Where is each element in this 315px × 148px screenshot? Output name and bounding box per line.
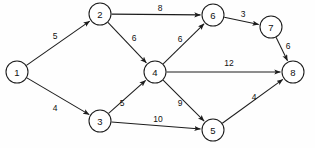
graph-svg: 54865106129364 12345678 (0, 0, 315, 148)
node-label-6: 6 (210, 10, 215, 21)
node-label-7: 7 (268, 22, 273, 33)
node-7[interactable]: 7 (260, 16, 282, 38)
edge-2-to-4 (108, 22, 146, 63)
node-6[interactable]: 6 (202, 4, 224, 26)
node-5[interactable]: 5 (202, 119, 224, 141)
node-3[interactable]: 3 (89, 110, 111, 132)
edge-weight-2-4: 6 (132, 33, 137, 43)
edge-2-to-6 (111, 14, 200, 15)
edge-weight-1-3: 4 (53, 103, 58, 113)
edge-weights-group: 54865106129364 (53, 3, 291, 124)
edge-weight-6-7: 3 (241, 9, 246, 19)
edge-3-to-4 (109, 80, 146, 113)
edge-1-to-3 (27, 78, 89, 115)
edge-weight-5-8: 4 (252, 92, 257, 102)
node-label-2: 2 (97, 9, 102, 20)
edge-weight-3-5: 10 (153, 114, 163, 124)
node-label-3: 3 (97, 116, 102, 127)
node-8[interactable]: 8 (282, 61, 304, 83)
edge-weight-4-5: 9 (178, 98, 183, 108)
node-label-8: 8 (290, 67, 295, 78)
edge-weight-3-4: 5 (120, 98, 125, 108)
edge-weight-4-6: 6 (178, 34, 183, 44)
edge-4-to-5 (163, 80, 204, 121)
edge-weight-7-8: 6 (286, 41, 291, 51)
edge-1-to-2 (26, 21, 89, 65)
node-4[interactable]: 4 (144, 61, 166, 83)
edge-weight-1-2: 5 (53, 31, 58, 41)
edge-4-to-6 (163, 24, 204, 64)
node-label-5: 5 (210, 125, 215, 136)
edge-weight-4-8: 12 (224, 58, 234, 68)
node-1[interactable]: 1 (6, 61, 28, 83)
node-label-4: 4 (152, 67, 157, 78)
edge-weight-2-6: 8 (158, 3, 163, 13)
node-label-1: 1 (14, 67, 19, 78)
node-2[interactable]: 2 (89, 3, 111, 25)
graph-diagram: 54865106129364 12345678 (0, 0, 315, 148)
